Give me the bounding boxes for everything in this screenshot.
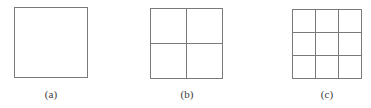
figure-c-cell: [316, 10, 338, 32]
figure-c-square: [292, 9, 362, 79]
figure-c-cell: [339, 56, 361, 78]
figure-c-cell: [316, 56, 338, 78]
figure-c: (c): [0, 0, 371, 108]
figure-c-cell: [316, 33, 338, 55]
figure-c-cell: [293, 33, 315, 55]
figure-panel: (a)(b)(c): [0, 0, 371, 108]
figure-c-caption: (c): [297, 88, 357, 101]
figure-c-cell: [293, 56, 315, 78]
figure-c-cell: [293, 10, 315, 32]
figure-c-cell: [339, 10, 361, 32]
figure-c-cell: [339, 33, 361, 55]
